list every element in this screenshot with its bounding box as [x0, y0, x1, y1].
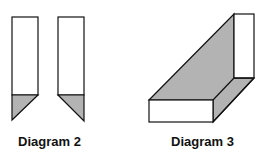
- left-strip: [12, 17, 38, 120]
- diagram-3: [149, 14, 254, 122]
- diagram-2: [12, 17, 84, 121]
- diagram-3-caption: Diagram 3: [171, 134, 234, 149]
- vertical-box: [234, 14, 254, 78]
- horizontal-box: [149, 100, 213, 122]
- diagram-2-caption: Diagram 2: [18, 134, 81, 149]
- right-strip: [58, 17, 84, 121]
